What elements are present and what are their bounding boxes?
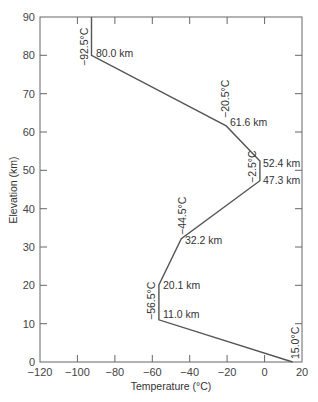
annotation-minus56c: −56.5°C — [145, 281, 157, 320]
y-tick-label: 30 — [23, 241, 35, 253]
x-tick-label: 0 — [262, 366, 268, 378]
y-tick-label: 60 — [23, 126, 35, 138]
annotation-20km: 20.1 km — [163, 279, 201, 291]
y-tick-label: 50 — [23, 164, 35, 176]
annotation-minus20c: −20.5°C — [219, 79, 231, 118]
y-tick-label: 20 — [23, 279, 35, 291]
y-axis-title: Elevation (km) — [7, 156, 19, 223]
x-tick-labels: −120 −100 −80 −60 −40 −20 0 20 — [28, 366, 309, 378]
y-tick-label: 70 — [23, 88, 35, 100]
annotations: 15.0°C 11.0 km −56.5°C 20.1 km 32.2 km −… — [78, 27, 301, 359]
y-tick-label: 10 — [23, 318, 35, 330]
annotation-minus44c: −44.5°C — [176, 196, 188, 235]
annotation-15c: 15.0°C — [289, 326, 301, 359]
y-tick-label: 0 — [29, 356, 35, 368]
annotation-11km: 11.0 km — [163, 308, 200, 320]
x-tick-label: −20 — [218, 366, 237, 378]
annotation-80km: 80.0 km — [96, 47, 134, 59]
x-tick-label: 20 — [296, 366, 308, 378]
x-tick-label: −60 — [143, 366, 162, 378]
y-tick-label: 90 — [23, 11, 35, 23]
y-tick-label: 40 — [23, 203, 35, 215]
x-tick-label: −100 — [65, 366, 90, 378]
annotation-47km: 47.3 km — [263, 174, 301, 186]
x-tick-label: −80 — [106, 366, 125, 378]
annotation-32km: 32.2 km — [185, 234, 223, 246]
annotation-minus2c: −2.5°C — [246, 150, 258, 183]
annotation-61km: 61.6 km — [230, 116, 268, 128]
temperature-elevation-chart: −120 −100 −80 −60 −40 −20 0 20 0 10 20 3… — [0, 0, 318, 402]
y-tick-label: 80 — [23, 49, 35, 61]
x-axis-title: Temperature (°C) — [131, 380, 212, 392]
annotation-minus92c: −92.5°C — [78, 27, 90, 66]
annotation-52km: 52.4 km — [263, 157, 301, 169]
y-tick-labels: 0 10 20 30 40 50 60 70 80 90 — [23, 11, 35, 368]
x-tick-label: −40 — [180, 366, 199, 378]
